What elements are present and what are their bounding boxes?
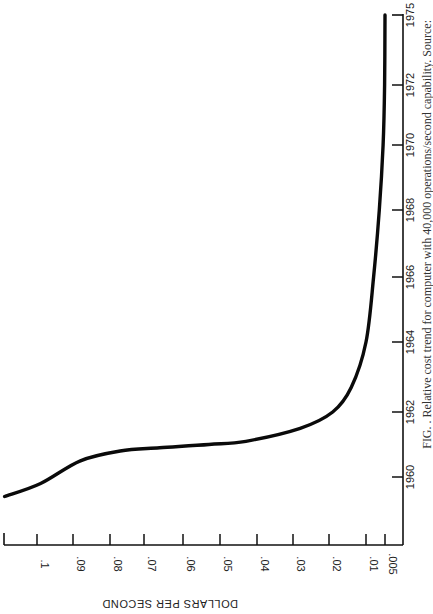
series-line [5, 15, 385, 497]
figure-caption: FIG. . Relative cost trend for computer … [420, 20, 433, 449]
value-tick-label: .005 [387, 553, 399, 574]
value-tick-label: .03 [295, 556, 307, 571]
value-axis-ticks: .1.09.08.07.06.05.04.03.02.01.005 [37, 534, 399, 575]
chart: .1.09.08.07.06.05.04.03.02.01.005 196019… [0, 0, 433, 614]
value-tick-label: .07 [146, 556, 158, 571]
y-axis-title: DOLLARS PER SECOND [102, 598, 238, 610]
value-tick-label: .01 [368, 556, 380, 571]
year-tick-label: 1964 [404, 330, 416, 354]
value-tick-label: .04 [259, 556, 271, 571]
year-tick-label: 1960 [404, 465, 416, 489]
value-tick-label: .08 [112, 556, 124, 571]
series [5, 15, 385, 497]
value-tick-label: .02 [331, 556, 343, 571]
year-tick-label: 1975 [404, 3, 416, 27]
value-tick-label: .09 [75, 556, 87, 571]
year-tick-label: 1968 [404, 198, 416, 222]
year-tick-label: 1970 [404, 133, 416, 157]
year-axis-ticks: 19601962196419661968197019721975 [392, 3, 416, 489]
value-tick-label: .1 [39, 559, 51, 568]
year-tick-label: 1972 [404, 73, 416, 97]
value-tick-label: .06 [185, 556, 197, 571]
value-tick-label: .05 [222, 556, 234, 571]
year-tick-label: 1962 [404, 400, 416, 424]
year-tick-label: 1966 [404, 265, 416, 289]
axes [4, 14, 403, 545]
